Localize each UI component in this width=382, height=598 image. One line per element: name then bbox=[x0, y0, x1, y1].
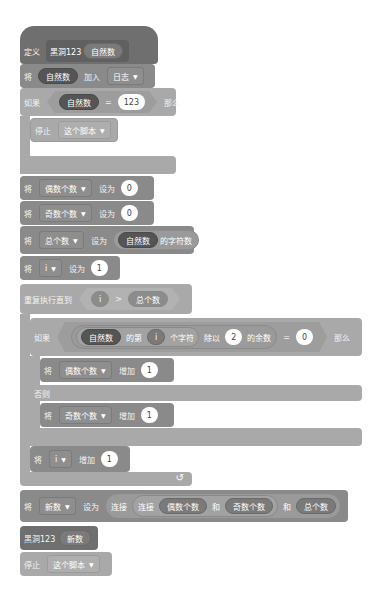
value-input[interactable]: 0 bbox=[121, 180, 138, 196]
length-label: 的字符数 bbox=[160, 235, 192, 246]
var-name: i bbox=[55, 455, 57, 464]
action-label: 设为 bbox=[99, 208, 115, 219]
loop-arrow-icon: ↺ bbox=[176, 472, 184, 483]
value-input[interactable]: 0 bbox=[121, 205, 138, 221]
left-reporter[interactable]: 自然数 bbox=[59, 94, 99, 110]
add-to-list-block[interactable]: 将 自然数 加入 日志▼ bbox=[20, 64, 155, 88]
and-label: 和 bbox=[212, 501, 220, 512]
arg-reporter[interactable]: 新数 bbox=[59, 530, 91, 546]
var-dropdown[interactable]: 奇数个数▼ bbox=[39, 204, 92, 222]
list-dropdown[interactable]: 日志▼ bbox=[107, 67, 144, 85]
index-reporter[interactable]: i bbox=[147, 329, 165, 345]
repeat-arm bbox=[20, 314, 30, 482]
set-i-block[interactable]: 将 i▼ 设为 1 bbox=[20, 256, 120, 280]
and-label: 和 bbox=[283, 501, 291, 512]
value-input[interactable]: 1 bbox=[91, 260, 108, 276]
else-keyword: 否则 bbox=[34, 388, 50, 399]
if-footer bbox=[20, 156, 176, 174]
right-reporter[interactable]: 总个数 bbox=[128, 291, 168, 307]
keyword: 将 bbox=[24, 183, 32, 194]
define-prototype: 黑洞123 自然数 bbox=[46, 40, 129, 62]
var-dropdown[interactable]: 新数▼ bbox=[39, 497, 76, 515]
value-input[interactable]: 1 bbox=[141, 407, 158, 423]
stop-keyword: 停止 bbox=[35, 125, 51, 136]
source-reporter[interactable]: 自然数 bbox=[118, 232, 158, 248]
set-new-block[interactable]: 将 新数▼ 设为 连接 连接 偶数个数 和 奇数个数 和 总个数 bbox=[20, 490, 348, 522]
action-label: 加入 bbox=[84, 71, 100, 82]
set-even-block[interactable]: 将 偶数个数▼ 设为 0 bbox=[20, 176, 154, 200]
param-reporter[interactable]: 自然数 bbox=[83, 43, 123, 59]
chevron-down-icon: ▼ bbox=[61, 456, 66, 463]
var-dropdown[interactable]: i▼ bbox=[49, 450, 72, 468]
equals-condition[interactable]: 自然数 的第 i 个字符 除以 2 的余数 = 0 bbox=[57, 322, 327, 352]
chevron-down-icon: ▼ bbox=[81, 210, 86, 217]
action-label: 设为 bbox=[69, 263, 85, 274]
join-outer-reporter[interactable]: 连接 连接 偶数个数 和 奇数个数 和 总个数 bbox=[105, 493, 341, 519]
letter-of-label: 的第 bbox=[126, 332, 142, 343]
stop-option: 这个脚本 bbox=[53, 559, 85, 570]
right-input[interactable]: 123 bbox=[118, 94, 145, 110]
change-odd-block[interactable]: 将 奇数个数▼ 增加 1 bbox=[40, 403, 174, 427]
var-dropdown[interactable]: 总个数▼ bbox=[39, 231, 84, 249]
stop-option-dropdown[interactable]: 这个脚本▼ bbox=[58, 121, 111, 139]
operator: > bbox=[115, 295, 122, 304]
left-reporter[interactable]: i bbox=[91, 291, 109, 307]
total-count-reporter[interactable]: 总个数 bbox=[296, 498, 336, 514]
repeat-until-block[interactable]: 重复执行直到 i > 总个数 bbox=[20, 284, 192, 314]
operator: = bbox=[105, 98, 112, 107]
action-label: 设为 bbox=[91, 235, 107, 246]
if-else-block[interactable]: 如果 自然数 的第 i 个字符 除以 2 的余数 = 0 那么 bbox=[30, 318, 362, 356]
define-block[interactable]: 定义 黑洞123 自然数 bbox=[20, 26, 158, 64]
stop-option-dropdown[interactable]: 这个脚本▼ bbox=[47, 555, 100, 573]
var-name: 总个数 bbox=[45, 235, 69, 246]
change-even-block[interactable]: 将 偶数个数▼ 增加 1 bbox=[40, 358, 174, 382]
stop-block[interactable]: 停止 这个脚本▼ bbox=[30, 118, 118, 142]
var-name: 偶数个数 bbox=[65, 365, 97, 376]
join-label: 连接 bbox=[111, 501, 127, 512]
chevron-down-icon: ▼ bbox=[89, 561, 94, 568]
set-total-block[interactable]: 将 总个数▼ 设为 自然数 的字符数 bbox=[20, 226, 194, 254]
right-input[interactable]: 0 bbox=[296, 329, 313, 345]
equals-condition[interactable]: 自然数 = 123 bbox=[47, 91, 157, 113]
remainder-label: 的余数 bbox=[247, 332, 271, 343]
define-block-name: 黑洞123 bbox=[50, 46, 81, 57]
value-input[interactable]: 1 bbox=[101, 451, 118, 467]
value-input[interactable]: 1 bbox=[141, 362, 158, 378]
divisor-input[interactable]: 2 bbox=[225, 329, 242, 345]
change-i-block[interactable]: 将 i▼ 增加 1 bbox=[30, 446, 130, 472]
source-reporter[interactable]: 自然数 bbox=[81, 329, 121, 345]
greater-than-condition[interactable]: i > 总个数 bbox=[79, 288, 180, 310]
chevron-down-icon: ▼ bbox=[101, 367, 106, 374]
mod-reporter[interactable]: 自然数 的第 i 个字符 除以 2 的余数 bbox=[71, 325, 277, 349]
join-label: 连接 bbox=[138, 501, 154, 512]
then-label: 那么 bbox=[164, 97, 180, 108]
stop-end-block[interactable]: 停止 这个脚本▼ bbox=[20, 552, 112, 576]
even-count-reporter[interactable]: 偶数个数 bbox=[159, 498, 207, 514]
if-block[interactable]: 如果 自然数 = 123 那么 bbox=[20, 88, 176, 116]
if-keyword: 如果 bbox=[34, 332, 50, 343]
item-reporter[interactable]: 自然数 bbox=[38, 68, 78, 84]
action-label: 设为 bbox=[83, 501, 99, 512]
odd-count-reporter[interactable]: 奇数个数 bbox=[225, 498, 273, 514]
list-name: 日志 bbox=[113, 71, 129, 82]
var-dropdown[interactable]: 奇数个数▼ bbox=[59, 406, 112, 424]
call-custom-block[interactable]: 黑洞123 新数 bbox=[20, 526, 98, 550]
var-dropdown[interactable]: i▼ bbox=[39, 259, 62, 277]
var-dropdown[interactable]: 偶数个数▼ bbox=[59, 361, 112, 379]
length-reporter[interactable]: 自然数 的字符数 bbox=[113, 230, 199, 250]
operator: = bbox=[283, 333, 290, 342]
set-odd-block[interactable]: 将 奇数个数▼ 设为 0 bbox=[20, 201, 154, 225]
chevron-down-icon: ▼ bbox=[100, 127, 105, 134]
join-inner-reporter[interactable]: 连接 偶数个数 和 奇数个数 bbox=[132, 495, 278, 517]
if-keyword: 如果 bbox=[24, 97, 40, 108]
keyword: 将 bbox=[24, 501, 32, 512]
letter-of-reporter[interactable]: 自然数 的第 i 个字符 bbox=[76, 327, 199, 347]
then-label: 那么 bbox=[334, 332, 350, 343]
keyword: 将 bbox=[34, 454, 42, 465]
action-label: 增加 bbox=[79, 454, 95, 465]
keyword: 将 bbox=[24, 71, 32, 82]
keyword: 将 bbox=[44, 410, 52, 421]
var-dropdown[interactable]: 偶数个数▼ bbox=[39, 179, 92, 197]
var-name: 偶数个数 bbox=[45, 183, 77, 194]
chevron-down-icon: ▼ bbox=[101, 412, 106, 419]
